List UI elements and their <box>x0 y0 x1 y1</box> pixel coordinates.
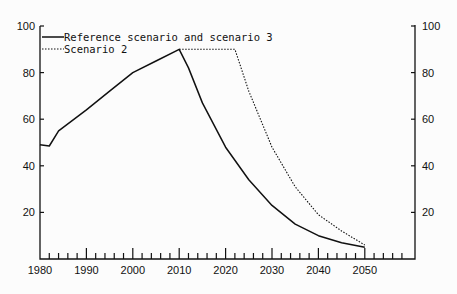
y-tick-label-right: 80 <box>422 67 434 79</box>
x-tick-label: 2010 <box>167 264 191 276</box>
y-tick-label-right: 40 <box>422 160 434 172</box>
y-tick-label-left: 60 <box>23 113 35 125</box>
line-chart: 1980199020002010202020302040205020406080… <box>0 0 457 294</box>
y-tick-label-left: 80 <box>23 67 35 79</box>
x-tick-label: 1990 <box>74 264 98 276</box>
x-tick-label: 2030 <box>260 264 284 276</box>
tick-labels: 1980199020002010202020302040205020406080… <box>17 20 441 276</box>
x-tick-label: 2040 <box>306 264 330 276</box>
series <box>40 49 365 247</box>
x-tick-label: 1980 <box>28 264 52 276</box>
x-tick-label: 2050 <box>353 264 377 276</box>
y-tick-label-left: 100 <box>17 20 35 32</box>
legend-label: Scenario 2 <box>64 43 127 55</box>
y-tick-label-left: 40 <box>23 160 35 172</box>
scenario-2-line <box>179 49 365 245</box>
axis-frame <box>40 25 415 259</box>
ticks <box>40 26 415 259</box>
y-tick-label-right: 100 <box>422 20 440 32</box>
reference-scenario-line <box>40 49 365 247</box>
y-tick-label-right: 60 <box>422 113 434 125</box>
legend: Reference scenario and scenario 3Scenari… <box>42 31 273 55</box>
y-tick-label-left: 20 <box>23 206 35 218</box>
axes <box>40 25 415 259</box>
y-tick-label-right: 20 <box>422 206 434 218</box>
legend-label: Reference scenario and scenario 3 <box>64 31 273 43</box>
x-tick-label: 2020 <box>213 264 237 276</box>
x-tick-label: 2000 <box>121 264 145 276</box>
